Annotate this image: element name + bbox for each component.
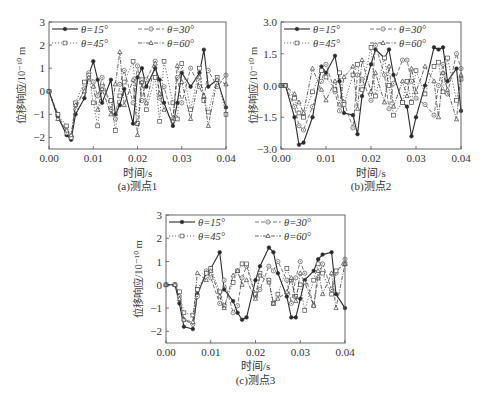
legend-item: θ=60°: [370, 38, 427, 49]
marker-square-icon: [285, 267, 289, 271]
y-tick-label: 1.5: [263, 48, 277, 60]
marker-filled-circle-icon: [96, 78, 100, 82]
marker-dot-icon: [388, 108, 389, 109]
legend: θ=15°θ=30°θ=45°θ=60°: [169, 217, 312, 242]
legend-item: θ=45°: [52, 38, 109, 49]
caption-b: (b)测点2: [281, 177, 461, 193]
marker-filled-circle-icon: [267, 246, 271, 250]
marker-dot-icon: [294, 106, 295, 107]
legend-item: θ=60°: [138, 38, 195, 49]
marker-triangle-icon: [432, 79, 436, 83]
series-path: [49, 50, 226, 140]
x-tick-label: 0.02: [128, 152, 147, 164]
x-tick-label: 0.03: [406, 152, 426, 164]
marker-triangle-icon: [294, 299, 298, 303]
marker-filled-circle-icon: [231, 299, 235, 303]
marker-dot-icon: [331, 289, 332, 290]
marker-triangle-icon: [297, 100, 301, 104]
marker-square-icon: [437, 60, 441, 64]
marker-triangle-icon: [360, 58, 364, 62]
legend-item: θ=45°: [284, 38, 341, 49]
marker-square-icon: [360, 88, 364, 92]
marker-dot-icon: [415, 98, 416, 99]
marker-square-icon: [118, 94, 122, 98]
series-line: [164, 246, 347, 331]
marker-filled-circle-icon: [312, 269, 316, 273]
marker-filled-circle-icon: [180, 220, 184, 224]
y-axis-label: 位移响应/10⁻¹⁰ m: [132, 240, 144, 317]
marker-dot-icon: [132, 102, 133, 103]
marker-dot-icon: [241, 277, 242, 278]
legend-item: θ=30°: [255, 217, 312, 228]
x-tick-label: 0.04: [451, 152, 471, 164]
marker-filled-circle-icon: [360, 94, 364, 98]
legend-item: θ=30°: [370, 24, 427, 35]
marker-filled-circle-icon: [446, 79, 450, 83]
marker-square-icon: [374, 94, 378, 98]
marker-dot-icon: [217, 86, 218, 87]
marker-triangle-icon: [244, 278, 248, 282]
marker-dot-icon: [273, 270, 274, 271]
marker-filled-circle-icon: [324, 71, 328, 75]
marker-triangle-icon: [206, 124, 210, 128]
marker-square-icon: [392, 113, 396, 117]
marker-dot-icon: [357, 74, 358, 75]
marker-filled-circle-icon: [423, 84, 427, 88]
marker-dot-icon: [438, 85, 439, 86]
marker-square-icon: [122, 80, 126, 84]
marker-triangle-icon: [405, 94, 409, 98]
marker-square-icon: [414, 69, 418, 73]
marker-filled-circle-icon: [236, 311, 240, 315]
marker-square-icon: [369, 46, 373, 50]
marker-filled-circle-icon: [276, 271, 280, 275]
marker-dot-icon: [181, 102, 182, 103]
marker-dot-icon: [382, 28, 383, 29]
marker-triangle-icon: [301, 111, 305, 115]
marker-triangle-icon: [319, 87, 323, 91]
marker-triangle-icon: [334, 306, 338, 310]
marker-triangle-icon: [351, 64, 355, 68]
marker-filled-circle-icon: [455, 67, 459, 71]
plot-area: [47, 48, 228, 142]
marker-dot-icon: [233, 312, 234, 313]
y-tick-label: −1: [33, 108, 45, 120]
marker-square-icon: [144, 108, 148, 112]
marker-dot-icon: [208, 70, 209, 71]
marker-filled-circle-icon: [202, 48, 206, 52]
marker-dot-icon: [97, 95, 98, 96]
legend-item: θ=15°: [284, 24, 341, 35]
marker-square-icon: [191, 313, 195, 317]
legend-label: θ=45°: [198, 231, 226, 242]
marker-dot-icon: [66, 132, 67, 133]
marker-dot-icon: [411, 81, 412, 82]
marker-triangle-icon: [333, 79, 337, 83]
marker-dot-icon: [361, 79, 362, 80]
marker-dot-icon: [291, 303, 292, 304]
marker-triangle-icon: [324, 98, 328, 102]
marker-filled-circle-icon: [432, 46, 436, 50]
y-tick-label: 0: [157, 279, 163, 291]
marker-dot-icon: [259, 289, 260, 290]
marker-square-icon: [330, 292, 334, 296]
marker-triangle-icon: [454, 117, 458, 121]
marker-square-icon: [198, 66, 202, 70]
marker-square-icon: [180, 234, 184, 238]
marker-dot-icon: [163, 86, 164, 87]
marker-filled-circle-icon: [410, 135, 414, 139]
chart-panel-b: −3.0−1.50.01.53.00.000.010.020.030.04位移响…: [232, 0, 486, 200]
marker-filled-circle-icon: [109, 78, 113, 82]
chart-panel-a: −2−101230.000.010.020.030.04位移响应/10⁻¹⁰ m…: [0, 0, 243, 200]
marker-square-icon: [383, 56, 387, 60]
marker-filled-circle-icon: [285, 295, 289, 299]
marker-filled-circle-icon: [254, 278, 258, 282]
marker-square-icon: [91, 101, 95, 105]
legend-label: θ=60°: [284, 231, 312, 242]
plot-area: [164, 246, 347, 331]
y-tick-label: −2: [150, 325, 162, 337]
marker-filled-circle-icon: [392, 73, 396, 77]
plot-area: [279, 43, 463, 146]
marker-square-icon: [297, 111, 301, 115]
marker-triangle-icon: [369, 90, 373, 94]
marker-triangle-icon: [289, 276, 293, 280]
marker-dot-icon: [219, 303, 220, 304]
